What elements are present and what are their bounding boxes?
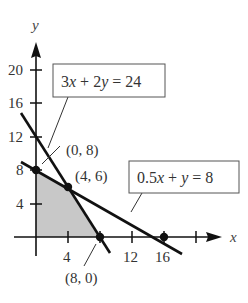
x-axis-arrow-icon (206, 232, 222, 242)
point-label-4-6: (4, 6) (75, 168, 108, 185)
point-0-8 (32, 166, 40, 174)
y-axis-arrow-icon (31, 42, 41, 58)
eq1-coef: 3 (61, 73, 69, 90)
x-axis-label: x (229, 229, 237, 245)
equation-label-3x-2y-24: 3x + 2y = 24 (61, 73, 141, 91)
x-tick-label-16: 16 (155, 249, 171, 265)
eq1-plus: + 2 (76, 73, 101, 90)
y-tick-label-8: 8 (16, 162, 24, 178)
eq2-plus: + (164, 169, 181, 186)
eq2-coef: 0.5 (137, 169, 157, 186)
eq2-var-x: x (156, 169, 164, 186)
eq1-var-x: x (68, 73, 76, 90)
point-4-6 (64, 183, 72, 191)
eq2-rhs: = 8 (188, 169, 213, 186)
equation-label-0.5x-y-8: 0.5x + y = 8 (137, 169, 213, 187)
x-tick-label-12: 12 (123, 249, 138, 265)
y-tick-label-16: 16 (8, 95, 24, 111)
point-label-0-8: (0, 8) (66, 142, 99, 159)
y-tick-label-12: 12 (8, 129, 23, 145)
y-tick-label-4: 4 (16, 196, 24, 212)
y-axis-label: y (30, 17, 39, 33)
point-8-0 (96, 233, 104, 241)
point-16-0 (160, 233, 168, 241)
eq1-rhs: = 24 (108, 73, 141, 90)
point-label-8-0: (8, 0) (65, 270, 98, 287)
linear-programming-chart: 4 12 16 4 8 12 16 20 x y (0, 8) (4, 6) (… (0, 0, 248, 303)
y-tick-label-20: 20 (8, 62, 23, 78)
x-tick-label-4: 4 (63, 249, 71, 265)
